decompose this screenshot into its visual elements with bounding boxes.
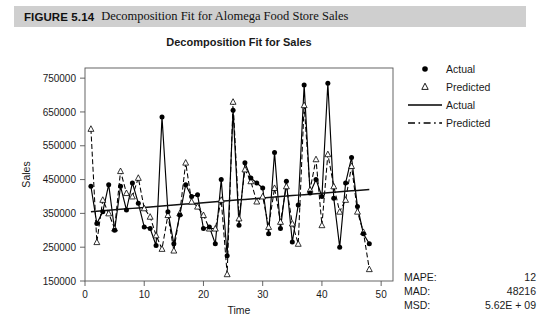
filled-circle-marker-icon	[404, 61, 446, 77]
data-point-actual	[213, 241, 218, 246]
solid-line-icon	[404, 97, 446, 113]
stat-label: MSD:	[404, 298, 430, 312]
y-axis-title: Sales	[20, 161, 32, 187]
dashed-line-icon	[404, 115, 446, 131]
legend-item-actual-line: Actual	[404, 96, 534, 114]
data-point-actual	[272, 150, 277, 155]
y-axis-tick-label: 650000	[43, 107, 77, 118]
data-point-actual	[284, 179, 289, 184]
data-point-predicted	[135, 175, 141, 181]
data-point-actual	[325, 81, 330, 86]
series-line-actual	[91, 83, 369, 255]
data-point-predicted	[283, 183, 289, 189]
figure-number: FIGURE 5.14	[24, 11, 94, 23]
data-point-actual	[88, 184, 93, 189]
data-point-actual	[290, 240, 295, 245]
plot-frame	[85, 68, 393, 281]
data-point-actual	[130, 180, 135, 185]
x-axis-tick-label: 0	[82, 289, 88, 300]
data-point-predicted	[100, 197, 106, 203]
data-point-actual	[349, 155, 354, 160]
data-point-actual	[142, 224, 147, 229]
data-point-predicted	[159, 246, 165, 252]
data-point-actual	[254, 180, 259, 185]
data-point-predicted	[147, 214, 153, 220]
legend-label: Actual	[446, 63, 475, 75]
y-axis-tick-label: 750000	[43, 73, 77, 84]
data-point-actual	[296, 202, 301, 207]
data-point-actual	[154, 243, 159, 248]
data-point-actual	[112, 228, 117, 233]
data-point-predicted	[301, 102, 307, 108]
legend-label: Predicted	[446, 81, 490, 93]
data-point-actual	[319, 194, 324, 199]
chart-container: Decomposition Fit for Sales 150000250000…	[0, 28, 540, 334]
data-point-predicted	[153, 232, 159, 238]
data-point-actual	[308, 191, 313, 196]
data-point-actual	[177, 213, 182, 218]
data-point-actual	[165, 209, 170, 214]
data-point-predicted	[325, 151, 331, 157]
legend-item-predicted-line: Predicted	[404, 114, 534, 132]
y-axis-tick-label: 350000	[43, 208, 77, 219]
data-point-actual	[337, 245, 342, 250]
data-point-predicted	[266, 224, 272, 230]
data-point-actual	[266, 231, 271, 236]
data-point-actual	[207, 224, 212, 229]
data-point-predicted	[230, 99, 236, 105]
data-point-actual	[355, 204, 360, 209]
data-point-actual	[100, 209, 105, 214]
y-axis-tick-label: 450000	[43, 174, 77, 185]
legend-label: Actual	[446, 99, 475, 111]
data-point-predicted	[260, 193, 266, 199]
accuracy-measures-box: MAPE: 12 MAD: 48216 MSD: 5.62E + 09	[404, 270, 536, 312]
stat-value: 5.62E + 09	[485, 298, 536, 312]
data-point-actual	[195, 192, 200, 197]
data-point-actual	[343, 180, 348, 185]
data-point-predicted	[295, 241, 301, 247]
stat-value: 48216	[507, 284, 536, 298]
data-point-predicted	[313, 156, 319, 162]
data-point-predicted	[366, 266, 372, 272]
legend-label: Predicted	[446, 117, 490, 129]
data-point-predicted	[337, 209, 343, 215]
data-point-actual	[219, 177, 224, 182]
y-axis-tick-label: 250000	[43, 242, 77, 253]
data-point-actual	[302, 82, 307, 87]
data-point-predicted	[236, 215, 242, 221]
data-point-predicted	[355, 209, 361, 215]
data-point-predicted	[124, 190, 130, 196]
data-point-actual	[148, 226, 153, 231]
data-point-actual	[314, 177, 319, 182]
stat-label: MAPE:	[404, 270, 437, 284]
data-point-predicted	[118, 168, 124, 174]
data-point-actual	[260, 186, 265, 191]
data-point-actual	[189, 194, 194, 199]
data-point-actual	[171, 241, 176, 246]
data-point-actual	[94, 221, 99, 226]
data-point-actual	[160, 115, 165, 120]
data-point-actual	[248, 175, 253, 180]
x-axis-tick-label: 30	[257, 289, 269, 300]
x-axis-tick-label: 20	[198, 289, 210, 300]
data-point-predicted	[331, 183, 337, 189]
data-point-actual	[361, 231, 366, 236]
legend-item-predicted-marker: Predicted	[404, 78, 534, 96]
data-point-actual	[331, 196, 336, 201]
data-point-actual	[231, 108, 236, 113]
data-point-predicted	[88, 126, 94, 132]
figure-caption-text: Decomposition Fit for Alomega Food Store…	[101, 9, 348, 24]
data-point-predicted	[183, 160, 189, 166]
data-point-predicted	[278, 219, 284, 225]
data-point-predicted	[319, 222, 325, 228]
data-point-actual	[136, 201, 141, 206]
open-triangle-marker-icon	[404, 79, 446, 95]
x-axis-tick-label: 10	[139, 289, 151, 300]
x-axis-tick-label: 40	[316, 289, 328, 300]
x-axis-tick-label: 50	[376, 289, 388, 300]
figure-caption-banner: FIGURE 5.14 Decomposition Fit for Alomeg…	[14, 6, 526, 27]
stat-label: MAD:	[404, 284, 430, 298]
data-point-actual	[237, 223, 242, 228]
data-point-actual	[225, 253, 230, 258]
data-point-predicted	[189, 198, 195, 204]
